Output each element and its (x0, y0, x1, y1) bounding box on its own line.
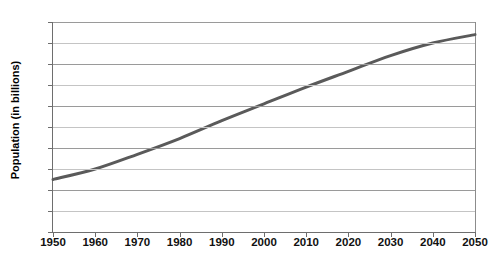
gridline-y-10 (53, 22, 475, 23)
y-tick-5 (48, 127, 53, 128)
y-tick-9 (48, 43, 53, 44)
y-axis-title: Population (in billions) (0, 0, 30, 240)
gridline-y-9 (53, 43, 475, 44)
series-path-world-population (53, 35, 475, 180)
x-axis-label-2050: 2050 (445, 236, 503, 248)
y-tick-8 (48, 64, 53, 65)
gridline-y-3 (53, 169, 475, 170)
plot-area: 0123456789101950196019701980199020002010… (52, 22, 476, 233)
population-line-chart: Population (in billions) 012345678910195… (0, 0, 503, 273)
y-tick-6 (48, 106, 53, 107)
gridline-y-7 (53, 85, 475, 86)
gridline-y-1 (53, 211, 475, 212)
gridline-y-5 (53, 127, 475, 128)
y-tick-1 (48, 211, 53, 212)
y-axis-title-label: Population (in billions) (9, 61, 21, 180)
y-tick-7 (48, 85, 53, 86)
y-tick-10 (48, 22, 53, 23)
gridline-y-8 (53, 64, 475, 65)
y-tick-3 (48, 169, 53, 170)
gridline-y-6 (53, 106, 475, 107)
gridline-y-2 (53, 190, 475, 191)
gridline-y-4 (53, 148, 475, 149)
y-tick-2 (48, 190, 53, 191)
bottom-artifact (0, 264, 503, 273)
y-tick-4 (48, 148, 53, 149)
